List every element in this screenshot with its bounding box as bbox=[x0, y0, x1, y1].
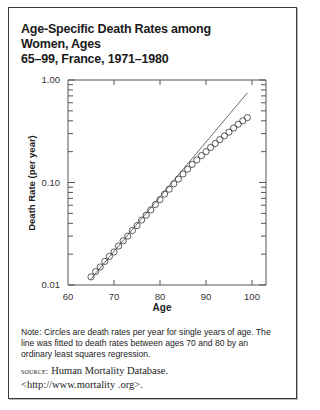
data-point bbox=[240, 118, 246, 124]
figure-source: source: Human Mortality Database. <http:… bbox=[21, 364, 281, 391]
data-point bbox=[175, 176, 181, 182]
y-axis-label: Death Rate (per year) bbox=[26, 135, 37, 231]
svg-text:0.01: 0.01 bbox=[42, 279, 61, 290]
source-label: source: bbox=[21, 366, 49, 376]
data-point bbox=[171, 181, 177, 187]
svg-text:60: 60 bbox=[63, 291, 74, 302]
data-point bbox=[129, 227, 135, 233]
source-url: <http://www.mortality .org>. bbox=[21, 379, 143, 390]
svg-text:80: 80 bbox=[155, 291, 166, 302]
data-point bbox=[244, 114, 250, 120]
tick-marks bbox=[68, 80, 266, 285]
svg-text:0.10: 0.10 bbox=[42, 177, 61, 188]
data-point bbox=[97, 264, 103, 270]
data-point bbox=[180, 171, 186, 177]
svg-text:90: 90 bbox=[201, 291, 212, 302]
data-point bbox=[185, 166, 191, 172]
data-point bbox=[134, 222, 140, 228]
data-points bbox=[88, 114, 251, 280]
figure-note: Note: Circles are death rates per year f… bbox=[21, 327, 281, 360]
svg-text:1.00: 1.00 bbox=[42, 74, 61, 85]
data-point bbox=[102, 258, 108, 264]
svg-text:70: 70 bbox=[109, 291, 120, 302]
data-point bbox=[166, 186, 172, 192]
data-point bbox=[125, 233, 131, 239]
tick-labels: 607080901000.010.101.00 bbox=[42, 74, 260, 302]
svg-text:100: 100 bbox=[244, 291, 260, 302]
x-axis-label: Age bbox=[153, 302, 172, 313]
source-text: Human Mortality Database. bbox=[51, 365, 168, 376]
data-point bbox=[139, 217, 145, 223]
axes bbox=[68, 80, 266, 285]
data-point bbox=[88, 274, 94, 280]
